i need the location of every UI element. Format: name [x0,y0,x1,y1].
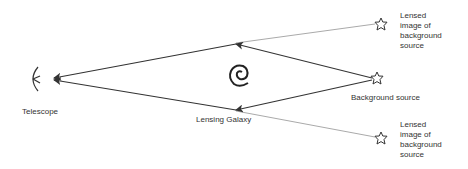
ray-source-to-top [236,44,372,78]
telescope-icon [33,67,40,91]
apparent-ray-top [236,24,375,43]
lensed-image-bottom-star-icon [375,132,387,144]
apparent-ray-bottom [236,111,375,137]
lensing-diagram [0,0,468,169]
lensed-image-top-label: Lensed image of background source [400,11,442,51]
background-source-star-icon [371,72,383,84]
lensing-galaxy-label: Lensing Galaxy [196,115,251,125]
lensed-image-top-star-icon [375,18,387,30]
lensed-image-bottom-label: Lensed image of background source [400,120,442,160]
galaxy-spiral-icon [230,66,248,86]
telescope-label: Telescope [22,107,58,117]
background-source-label: Background source [351,93,420,103]
ray-bottom-to-telescope [54,80,236,110]
ray-top-to-telescope [54,44,236,78]
